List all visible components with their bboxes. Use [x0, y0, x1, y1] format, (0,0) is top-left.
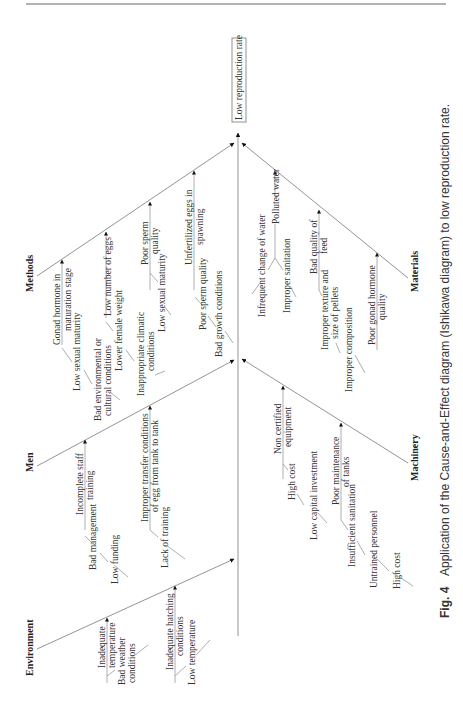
- subcause-improper-texture: Improper texture and: [320, 270, 330, 350]
- cause-bad-quality-of-feed: Bad quality of: [309, 219, 319, 274]
- category-men: Men: [24, 452, 35, 472]
- svg-text:temperature: temperature: [107, 623, 117, 668]
- subcause-low-temperature: Low temperature: [187, 620, 197, 685]
- fishbone-diagram: Low reproduction rate Methods Gonad horm…: [0, 0, 463, 707]
- subcause-insufficient-sanitation: Insufficient sanitation: [347, 484, 357, 567]
- subcause-improper-composition: Improper composition: [344, 307, 354, 392]
- effect-label: Low reproduction rate: [234, 35, 244, 120]
- subcause-high-cost: High cost: [287, 463, 297, 500]
- cause-inadequate-temperature: Inadequate: [97, 626, 107, 668]
- cause-gonad-hormone: Gonad hormone in: [52, 274, 62, 345]
- category-materials: Materials: [409, 251, 420, 292]
- bone-methods: Methods Gonad hormone in maturation stag…: [24, 143, 234, 421]
- category-environment: Environment: [24, 619, 35, 676]
- subcause-low-sexual-maturity: Low sexual maturity: [72, 312, 82, 391]
- svg-text:conditions: conditions: [146, 331, 156, 371]
- subcause-bad-environmental: Bad environmental or: [93, 337, 103, 421]
- bone-materials: Materials Polluted water Infrequent chan…: [242, 143, 420, 392]
- subcause-bad-growth-conditions: Bad growth conditions: [214, 270, 224, 357]
- cause-low-number-of-eggs: Low number of eggs: [103, 237, 113, 316]
- svg-text:conditions: conditions: [127, 643, 137, 683]
- svg-text:cultural conditions: cultural conditions: [103, 345, 113, 416]
- svg-text:spawning: spawning: [195, 208, 205, 245]
- svg-text:Fig. 4 Application of th: Fig. 4 Application of the Cause-and-Effe…: [438, 104, 452, 618]
- cause-poor-sperm-quality: Poor sperm: [140, 221, 150, 265]
- cause-unfertilized-eggs: Unfertilized eggs in: [184, 189, 194, 265]
- subcause-low-funding: Low funding: [110, 534, 120, 584]
- category-methods: Methods: [24, 255, 35, 292]
- cause-non-certified-equipment: Non certified: [273, 403, 283, 454]
- cause-poor-maintenance: Poor maintenance: [331, 437, 341, 505]
- subcause-infrequent-change-of-water: Infrequent change of water: [257, 214, 267, 317]
- subcause-high-cost-2: High cost: [392, 552, 402, 589]
- bone-men: Men Incomplete staff training Bad manage…: [24, 360, 234, 584]
- subcause-low-capital-investment: Low capital investment: [309, 450, 319, 540]
- svg-text:of tanks: of tanks: [341, 456, 351, 487]
- category-machinery: Machinery: [409, 434, 420, 481]
- cause-polluted-water: Polluted water: [271, 168, 281, 224]
- subcause-low-sexual-maturity-2: Low sexual maturity: [157, 253, 167, 332]
- svg-text:conditions: conditions: [175, 616, 185, 656]
- caption-label: Fig. 4: [438, 586, 452, 618]
- subcause-bad-management: Bad management: [88, 503, 98, 570]
- effect-box: Low reproduction rate: [232, 35, 246, 122]
- cause-improper-transfer: Improper transfer conditions: [140, 413, 150, 522]
- svg-text:of egg from tank to tank: of egg from tank to tank: [150, 420, 160, 512]
- cause-inadequate-hatching: Inadequate hatching: [165, 593, 175, 670]
- subcause-lack-of-training: Lack of training: [160, 507, 170, 568]
- cause-incomplete-staff-training: Incomplete staff: [75, 452, 85, 515]
- bone-machinery: Machinery Non certified equipment High c…: [242, 359, 420, 589]
- svg-text:size of pellets: size of pellets: [330, 286, 340, 339]
- svg-text:training: training: [85, 470, 95, 500]
- subcause-bad-weather: Bad weather: [117, 636, 127, 685]
- subcause-poor-sperm-quality: Poor sperm quality: [198, 257, 208, 330]
- cause-poor-gonad-hormone-quality: Poor gonad hormone: [367, 265, 377, 345]
- svg-text:feed: feed: [319, 237, 329, 254]
- svg-text:equipment: equipment: [283, 407, 293, 447]
- subcause-improper-sanitation: Improper sanitation: [282, 238, 292, 313]
- figure-caption: Fig. 4 Application of the Cause-and-Effe…: [438, 104, 452, 618]
- subcause-inappropriate-climatic: Inappropriate climatic: [136, 312, 146, 396]
- svg-text:quality: quality: [150, 227, 160, 254]
- svg-text:quality: quality: [377, 293, 387, 320]
- subcause-lower-female-weight: Lower female weight: [114, 289, 124, 371]
- bone-environment: Environment Inadequate temperature Bad w…: [24, 559, 234, 685]
- subcause-untrained-personnel: Untrained personnel: [369, 510, 379, 588]
- caption-text: Application of the Cause-and-Effect diag…: [438, 104, 452, 576]
